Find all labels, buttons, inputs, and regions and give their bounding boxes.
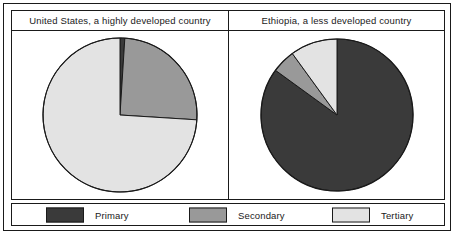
pie-slices-ethiopia — [261, 39, 413, 191]
legend-label-secondary: Secondary — [238, 209, 285, 220]
panel-title-ethiopia: Ethiopia, a less developed country — [229, 10, 445, 31]
legend-swatch-primary — [46, 207, 84, 222]
legend-item-tertiary: Tertiary — [332, 207, 413, 222]
pie-chart-ethiopia — [229, 31, 444, 199]
legend: Primary Secondary Tertiary — [11, 203, 445, 226]
legend-label-tertiary: Tertiary — [381, 209, 413, 220]
panel-body-ethiopia — [229, 31, 445, 200]
figure-frame: United States, a highly developed countr… — [3, 3, 451, 231]
panel-title-united-states: United States, a highly developed countr… — [11, 10, 229, 31]
panel-united-states: United States, a highly developed countr… — [11, 10, 229, 200]
pie-slices-united-states — [43, 38, 197, 192]
pie-slice-secondary — [120, 38, 197, 120]
panels-row: United States, a highly developed countr… — [11, 10, 445, 200]
panel-body-united-states — [11, 31, 229, 200]
legend-item-secondary: Secondary — [189, 207, 285, 222]
pie-svg-ethiopia — [259, 37, 415, 193]
legend-item-primary: Primary — [46, 207, 129, 222]
legend-swatch-secondary — [189, 207, 227, 222]
pie-chart-united-states — [12, 31, 228, 199]
panel-ethiopia: Ethiopia, a less developed country — [229, 10, 445, 200]
pie-svg-united-states — [41, 36, 199, 194]
legend-swatch-tertiary — [332, 207, 370, 222]
legend-label-primary: Primary — [95, 209, 129, 220]
